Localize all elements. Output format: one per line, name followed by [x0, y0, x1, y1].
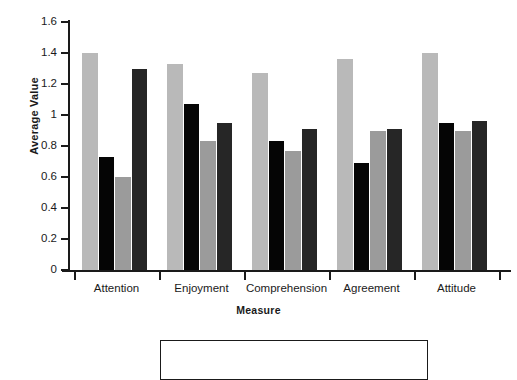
plot-area [68, 22, 511, 270]
bar [132, 69, 148, 271]
y-tick-mark [61, 176, 68, 178]
y-tick-label: 0.2 [17, 233, 57, 245]
y-tick-label: 1.6 [17, 16, 57, 28]
x-tick-label: Comprehension [246, 283, 327, 295]
y-tick-mark [61, 207, 68, 209]
bar [387, 129, 403, 270]
bar [82, 53, 98, 270]
y-tick-label: 1.2 [17, 78, 57, 90]
bar [167, 64, 183, 270]
x-tick-mark [499, 271, 501, 280]
bar [269, 141, 285, 270]
x-tick-mark [244, 271, 246, 280]
y-tick-label: 0 [17, 264, 57, 276]
y-tick-mark [61, 114, 68, 116]
y-tick-label: 0.8 [17, 140, 57, 152]
x-tick-mark [414, 271, 416, 280]
bar [200, 141, 216, 270]
y-tick-mark [61, 21, 68, 23]
bar [217, 123, 233, 270]
bar [472, 121, 488, 270]
y-tick-label: 1 [17, 109, 57, 121]
x-tick-label: Attitude [437, 283, 476, 295]
bar [455, 131, 471, 271]
bar [370, 131, 386, 271]
y-tick-mark [61, 269, 68, 271]
x-tick-label: Attention [94, 283, 139, 295]
y-tick-mark [61, 52, 68, 54]
bar [252, 73, 268, 270]
bar [99, 157, 115, 270]
x-axis-line [62, 270, 511, 272]
bar [439, 123, 455, 270]
bar [302, 129, 318, 270]
y-tick-label: 1.4 [17, 47, 57, 59]
bar [184, 104, 200, 270]
bar [285, 151, 301, 270]
legend-box [160, 340, 428, 380]
y-tick-mark [61, 145, 68, 147]
y-tick-label: 0.4 [17, 202, 57, 214]
x-axis-title: Measure [0, 304, 517, 316]
bar [354, 163, 370, 270]
bar [337, 59, 353, 270]
x-tick-mark [159, 271, 161, 280]
y-tick-label: 0.6 [17, 171, 57, 183]
y-tick-mark [61, 83, 68, 85]
bar [115, 177, 131, 270]
x-tick-mark [74, 271, 76, 280]
x-tick-label: Agreement [343, 283, 399, 295]
x-tick-label: Enjoyment [174, 283, 228, 295]
bar [422, 53, 438, 270]
y-tick-mark [61, 238, 68, 240]
x-tick-mark [329, 271, 331, 280]
